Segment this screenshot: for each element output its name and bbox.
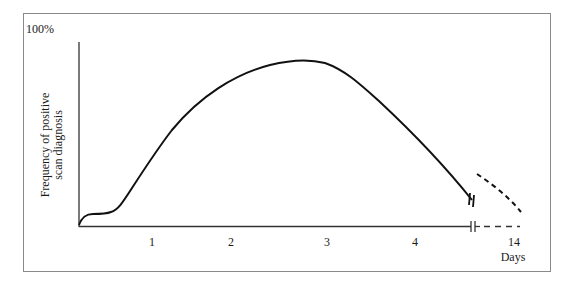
x-tick-2: 2	[228, 236, 234, 248]
y-axis-label-line2: scan diagnosis	[52, 93, 65, 198]
data-curve-dashed	[477, 174, 521, 212]
chart-plot	[0, 0, 563, 287]
y-axis-label: Frequency of positive scan diagnosis	[39, 93, 65, 198]
x-axis-break-icon	[471, 221, 480, 232]
x-tick-3: 3	[324, 236, 330, 248]
x-tick-14: 14	[508, 236, 520, 248]
y-top-label: 100%	[26, 23, 54, 35]
x-tick-4: 4	[412, 236, 418, 248]
data-curve	[79, 61, 472, 225]
x-axis-label: Days	[501, 251, 526, 263]
x-tick-1: 1	[149, 236, 155, 248]
